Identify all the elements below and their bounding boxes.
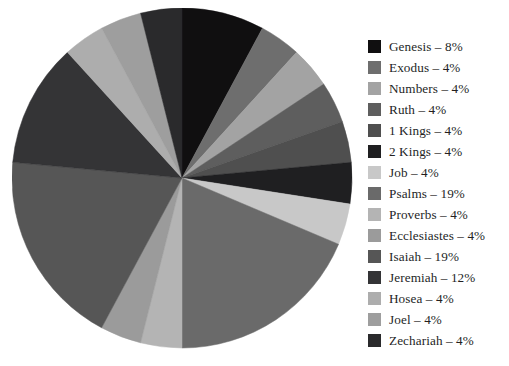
legend-item-label: Job – 4% [389, 162, 439, 183]
legend-item-label: Hosea – 4% [389, 288, 454, 309]
legend-item-label: Proverbs – 4% [389, 204, 468, 225]
legend-item-label: Psalms – 19% [389, 183, 465, 204]
legend-item[interactable]: 2 Kings – 4% [368, 141, 509, 162]
legend-item[interactable]: Genesis – 8% [368, 36, 509, 57]
legend-item[interactable]: Numbers – 4% [368, 78, 509, 99]
legend-item[interactable]: Ecclesiastes – 4% [368, 225, 509, 246]
legend-color-swatch [368, 271, 381, 284]
legend-item-label: Ruth – 4% [389, 99, 446, 120]
pie-chart-figure: Genesis – 8%Exodus – 4%Numbers – 4%Ruth … [0, 0, 509, 366]
legend-item[interactable]: Isaiah – 19% [368, 246, 509, 267]
legend-item[interactable]: Joel – 4% [368, 309, 509, 330]
legend-item-label: Jeremiah – 12% [389, 267, 475, 288]
legend-item-label: Exodus – 4% [389, 57, 460, 78]
legend-item[interactable]: Hosea – 4% [368, 288, 509, 309]
legend-color-swatch [368, 229, 381, 242]
legend-color-swatch [368, 40, 381, 53]
legend-item-label: Joel – 4% [389, 309, 442, 330]
chart-legend: Genesis – 8%Exodus – 4%Numbers – 4%Ruth … [368, 36, 509, 351]
legend-item[interactable]: Job – 4% [368, 162, 509, 183]
legend-item[interactable]: Psalms – 19% [368, 183, 509, 204]
pie-chart-svg [12, 8, 353, 358]
legend-color-swatch [368, 103, 381, 116]
pie-chart-plot-area [12, 8, 353, 358]
legend-item-label: Isaiah – 19% [389, 246, 459, 267]
legend-item[interactable]: Zechariah – 4% [368, 330, 509, 351]
legend-color-swatch [368, 61, 381, 74]
legend-item[interactable]: 1 Kings – 4% [368, 120, 509, 141]
legend-color-swatch [368, 166, 381, 179]
legend-color-swatch [368, 145, 381, 158]
legend-item[interactable]: Jeremiah – 12% [368, 267, 509, 288]
legend-item-label: Numbers – 4% [389, 78, 469, 99]
legend-color-swatch [368, 208, 381, 221]
legend-color-swatch [368, 292, 381, 305]
legend-color-swatch [368, 82, 381, 95]
legend-item-label: 2 Kings – 4% [389, 141, 462, 162]
legend-item-label: Genesis – 8% [389, 36, 463, 57]
legend-item-label: Zechariah – 4% [389, 330, 474, 351]
legend-item-label: Ecclesiastes – 4% [389, 225, 485, 246]
legend-color-swatch [368, 187, 381, 200]
legend-color-swatch [368, 334, 381, 347]
legend-color-swatch [368, 250, 381, 263]
legend-item[interactable]: Ruth – 4% [368, 99, 509, 120]
legend-color-swatch [368, 124, 381, 137]
legend-item[interactable]: Proverbs – 4% [368, 204, 509, 225]
legend-item-label: 1 Kings – 4% [389, 120, 462, 141]
legend-color-swatch [368, 313, 381, 326]
legend-item[interactable]: Exodus – 4% [368, 57, 509, 78]
